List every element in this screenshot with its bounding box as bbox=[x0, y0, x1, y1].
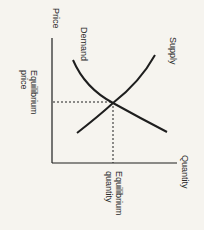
equilibrium-price-label-line1: Equilibrium bbox=[29, 70, 39, 115]
x-axis-label: Quantity bbox=[180, 155, 190, 189]
equilibrium-price-label-line2: price bbox=[19, 70, 29, 115]
equilibrium-quantity-label: Equilibrium quantity bbox=[104, 171, 124, 216]
equilibrium-quantity-label-line2: quantity bbox=[104, 171, 114, 216]
y-axis-label: Price bbox=[51, 8, 61, 29]
supply-demand-diagram bbox=[0, 0, 204, 230]
demand-label: Demand bbox=[79, 27, 89, 61]
supply-curve bbox=[77, 55, 155, 133]
equilibrium-quantity-label-line1: Equilibrium bbox=[114, 171, 124, 216]
equilibrium-price-label: Equilibrium price bbox=[19, 70, 39, 115]
supply-label: Supply bbox=[168, 37, 178, 65]
